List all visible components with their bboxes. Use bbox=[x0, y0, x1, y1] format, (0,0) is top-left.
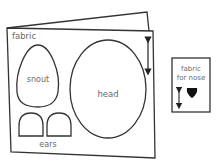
snout-label: snout bbox=[27, 75, 49, 84]
sewing-pattern-diagram: fabric snout head ears fabric for nose bbox=[0, 0, 220, 167]
nose-fabric-label-line1: fabric bbox=[181, 65, 201, 73]
head-label: head bbox=[97, 89, 118, 99]
nose-fabric-label-line2: for nose bbox=[177, 74, 206, 82]
front-fabric-sheet bbox=[7, 28, 155, 158]
ears-label: ears bbox=[39, 140, 56, 149]
fabric-label: fabric bbox=[12, 31, 36, 41]
